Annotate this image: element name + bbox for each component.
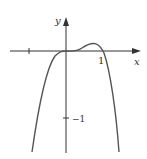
y-axis-arrow-icon [63,17,69,26]
x-axis-arrow-icon [132,48,141,54]
y-tick-label-neg1: −1 [72,114,85,124]
x-axis-label: x [134,56,140,67]
x-tick-label-1: 1 [98,55,104,66]
function-curve [32,44,119,152]
y-axis-label: y [54,15,61,26]
graph: y x 1 −1 [0,0,147,159]
